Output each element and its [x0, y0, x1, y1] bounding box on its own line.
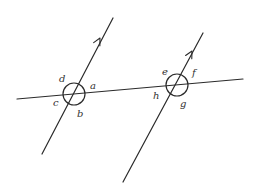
parallel-lines-diagram: d a c b e f h g [0, 0, 257, 185]
parallel-line-1 [42, 18, 113, 154]
angle-label-h: h [153, 90, 159, 101]
transversal-line [17, 79, 243, 99]
angle-label-g: g [180, 98, 186, 109]
angle-label-f: f [191, 67, 198, 78]
angle-label-a: a [90, 80, 96, 91]
angle-label-c: c [53, 97, 59, 108]
angle-label-e: e [162, 66, 168, 77]
angle-label-d: d [59, 73, 65, 84]
angle-label-b: b [77, 108, 83, 119]
parallel-line-2 [123, 33, 203, 182]
